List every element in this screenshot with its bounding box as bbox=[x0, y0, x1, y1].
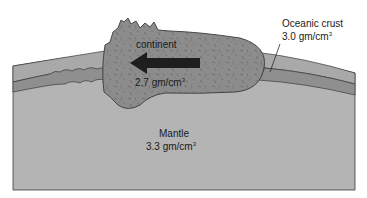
continent-density: 2.7 gm/cm3 bbox=[135, 77, 186, 88]
oceanic-crust-label: Oceanic crust bbox=[282, 18, 343, 29]
mantle-density: 3.3 gm/cm3 bbox=[146, 141, 197, 152]
continental-crust-diagram: continent 2.7 gm/cm3 Oceanic crust 3.0 g… bbox=[0, 0, 367, 198]
mantle-label: Mantle bbox=[159, 128, 189, 139]
continent-label: continent bbox=[136, 39, 177, 50]
oceanic-crust-density: 3.0 gm/cm3 bbox=[282, 31, 333, 42]
